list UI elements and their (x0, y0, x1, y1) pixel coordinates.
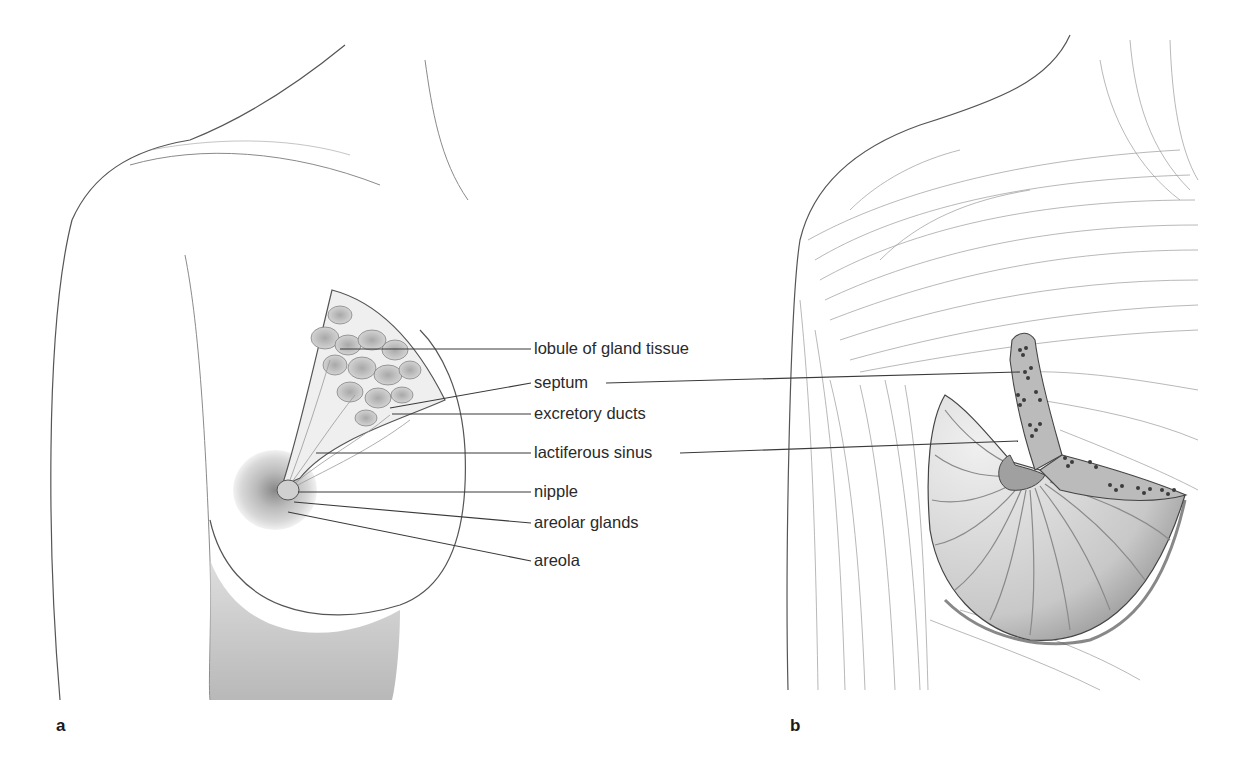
panel-b-illustration (787, 35, 1198, 690)
clavicle-shadow (150, 141, 350, 155)
clavicle-outline (130, 153, 380, 185)
label-areolar-glands: areolar glands (534, 513, 639, 531)
neck-outline (425, 60, 468, 200)
label-excretory-ducts: excretory ducts (534, 404, 646, 422)
gland-wedge (282, 290, 445, 486)
septum-section-vertical (1010, 333, 1062, 470)
panel-letter-b: b (790, 716, 800, 735)
label-areola: areola (534, 551, 581, 569)
nipple (277, 480, 299, 500)
label-septum: septum (534, 373, 588, 391)
leader-septum-b (606, 372, 1020, 383)
anatomy-figure: lobule of gland tissue septum excretory … (0, 0, 1248, 770)
gland-fan (928, 395, 1185, 640)
panel-a-illustration (51, 45, 468, 700)
panel-letter-a: a (56, 716, 66, 735)
arm-inner-line (185, 255, 211, 700)
label-lobule-of-gland-tissue: lobule of gland tissue (534, 339, 689, 357)
label-lactiferous-sinus: lactiferous sinus (534, 443, 652, 461)
labels: lobule of gland tissue septum excretory … (534, 339, 689, 569)
label-nipple: nipple (534, 482, 578, 500)
breast-underside-shadow (210, 560, 400, 700)
